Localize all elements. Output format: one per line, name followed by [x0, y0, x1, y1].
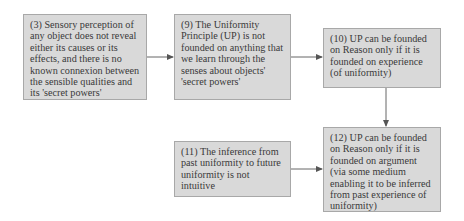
- node-10-text: (10) UP can be founded on Reason only if…: [330, 33, 427, 78]
- node-11-text: (11) The inference from past uniformity …: [181, 146, 281, 191]
- node-10: (10) UP can be founded on Reason only if…: [323, 28, 441, 88]
- node-12-text: (12) UP can be founded on Reason only if…: [330, 132, 431, 211]
- node-9: (9) The Uniformity Principle (UP) is not…: [174, 14, 291, 100]
- node-11: (11) The inference from past uniformity …: [174, 141, 291, 197]
- node-3-text: (3) Sensory perception of any object doe…: [30, 19, 139, 98]
- node-9-text: (9) The Uniformity Principle (UP) is not…: [181, 19, 283, 87]
- node-12: (12) UP can be founded on Reason only if…: [323, 127, 441, 212]
- node-3: (3) Sensory perception of any object doe…: [23, 14, 147, 100]
